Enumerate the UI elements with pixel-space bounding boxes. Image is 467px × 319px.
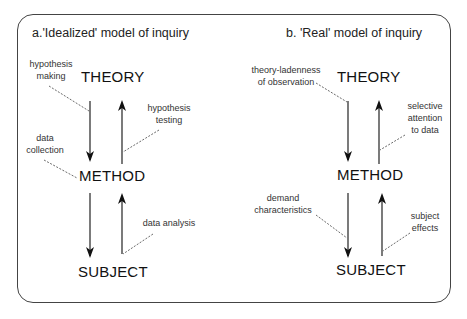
panel-b-node-subject: SUBJECT bbox=[336, 262, 406, 277]
panel-b-title: b. 'Real' model of inquiry bbox=[286, 27, 422, 40]
panel-b-node-method: METHOD bbox=[337, 167, 403, 182]
label-subject-effects: subject effects bbox=[406, 210, 444, 234]
panel-a-node-method: METHOD bbox=[79, 168, 145, 183]
label-demand-characteristics: demand characteristics bbox=[250, 192, 316, 216]
label-data-analysis: data analysis bbox=[138, 217, 200, 229]
panel-a-title: a.'Idealized' model of inquiry bbox=[32, 27, 189, 40]
label-hypothesis-making: hypothesis making bbox=[22, 58, 80, 82]
label-data-collection: data collection bbox=[20, 132, 70, 156]
label-selective-attention: selective attention to data bbox=[403, 100, 447, 136]
label-theory-ladenness: theory-ladenness of observation bbox=[245, 64, 327, 88]
panel-a-node-theory: THEORY bbox=[81, 69, 144, 84]
label-hypothesis-testing: hypothesis testing bbox=[140, 102, 198, 126]
panel-b-node-theory: THEORY bbox=[337, 69, 400, 84]
panel-a-node-subject: SUBJECT bbox=[78, 264, 148, 279]
